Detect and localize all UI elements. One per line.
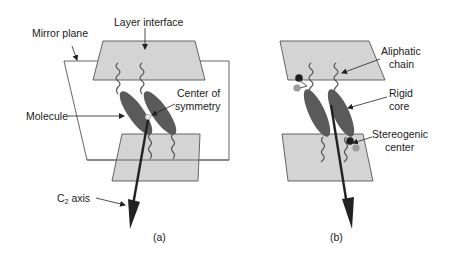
stereo-group-dark-bottom — [346, 137, 354, 145]
c2-axis-arrowhead — [128, 199, 140, 229]
center-of-symmetry-label-line1: Center of — [177, 87, 220, 99]
center-of-symmetry-label-line2: symmetry — [175, 100, 221, 112]
layer-interface-label: Layer interface — [114, 16, 184, 28]
stereo-group-dark-top — [295, 74, 303, 82]
aliphatic-chain-label-line1: Aliphatic — [381, 45, 421, 57]
bottom-layer-interface — [112, 134, 200, 181]
panel-b: Aliphatic chain Rigid core Stereogenic c… — [280, 41, 428, 243]
c2-axis-arrowhead-b — [342, 197, 354, 229]
molecule-symmetry-diagram: Mirror plane Layer interface Molecule Ce… — [0, 0, 453, 259]
aliphatic-chain-label-line2: chain — [389, 58, 414, 70]
rigid-core-label-line2: core — [389, 100, 410, 112]
panel-a-caption: (a) — [153, 231, 166, 243]
rigid-core-label-line1: Rigid — [389, 87, 413, 99]
panel-b-caption: (b) — [330, 231, 343, 243]
stereogenic-center-label-line1: Stereogenic — [372, 128, 428, 140]
panel-a: Mirror plane Layer interface Molecule Ce… — [26, 16, 229, 243]
stereogenic-center-label-line2: center — [385, 141, 415, 153]
c2-axis-label: C2 axis — [57, 192, 90, 205]
top-layer-interface-b — [280, 41, 385, 80]
stereo-group-light-top — [293, 84, 300, 91]
center-of-symmetry-point — [145, 114, 151, 120]
molecule-label: Molecule — [26, 110, 68, 122]
stereo-group-light-bottom — [352, 144, 359, 151]
mirror-plane-label: Mirror plane — [32, 27, 88, 39]
top-layer-interface — [93, 41, 205, 80]
